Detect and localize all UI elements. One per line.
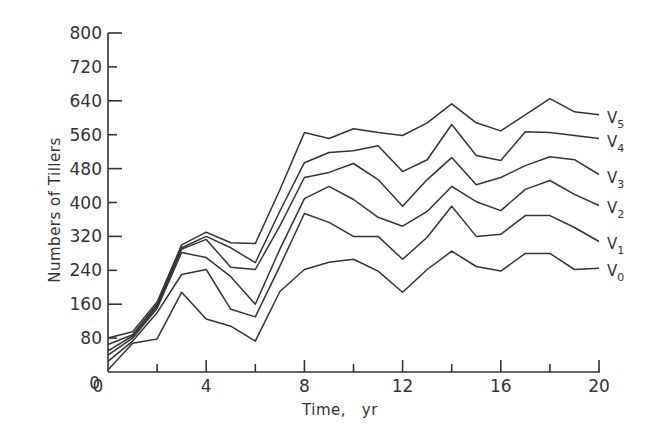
- y-tick-label: 240: [70, 260, 102, 280]
- y-tick-label: 720: [70, 57, 102, 77]
- x-tick-label: 12: [392, 376, 414, 396]
- series-label-v0: V0: [607, 262, 624, 284]
- series-label-v3: V3: [607, 169, 624, 191]
- y-ticks: 080160240320400480560640720800: [70, 23, 122, 393]
- series-line-v2: [108, 181, 599, 356]
- y-tick-label: 480: [70, 159, 102, 179]
- series-label-v5: V5: [607, 109, 624, 131]
- y-tick-label: 320: [70, 226, 102, 246]
- y-tick-label: 400: [70, 193, 102, 213]
- series-line-v4: [108, 125, 599, 345]
- y-tick-label: 80: [80, 328, 102, 348]
- y-tick-label: 800: [70, 23, 102, 43]
- series-labels: V5V4V3V2V1V0: [607, 109, 624, 284]
- x-tick-label: 0: [93, 376, 104, 396]
- x-tick-label: 8: [299, 376, 310, 396]
- y-tick-label: 560: [70, 125, 102, 145]
- series-line-v0: [108, 251, 599, 370]
- series-label-v1: V1: [607, 235, 624, 257]
- series-label-v2: V2: [607, 199, 624, 221]
- x-axis-title: Time, yr: [301, 401, 378, 419]
- x-ticks: 048121620: [93, 360, 610, 396]
- x-tick-label: 20: [588, 376, 610, 396]
- x-tick-label: 4: [201, 376, 212, 396]
- series-label-v4: V4: [607, 133, 624, 155]
- y-tick-label: 160: [70, 294, 102, 314]
- series-lines: [108, 99, 599, 370]
- line-chart: 080160240320400480560640720800 048121620…: [0, 0, 652, 427]
- x-tick-label: 16: [490, 376, 512, 396]
- series-line-v5: [108, 99, 599, 338]
- series-line-v1: [108, 206, 599, 361]
- axes: [108, 33, 600, 372]
- y-axis-title: Numbers of Tillers: [46, 137, 64, 282]
- y-tick-label: 640: [70, 91, 102, 111]
